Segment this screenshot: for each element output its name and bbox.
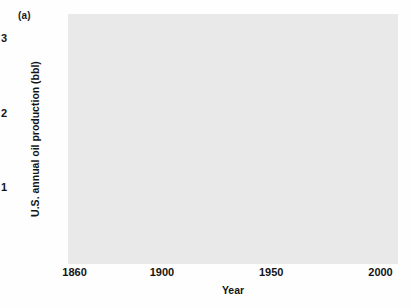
- y-tick-label: 3: [0, 32, 7, 44]
- x-tick-label: 1900: [142, 266, 182, 278]
- panel-label: (a): [18, 10, 31, 21]
- y-axis-label: U.S. annual oil production (bbl): [29, 34, 41, 244]
- y-tick-label: 2: [0, 107, 7, 119]
- figure-panel: (a) U.S. annual oil production (bbl) Yea…: [0, 0, 413, 308]
- x-tick-label: 1950: [251, 266, 291, 278]
- x-tick-label: 1860: [55, 266, 95, 278]
- x-axis-label: Year: [68, 284, 398, 296]
- x-tick-label: 2000: [361, 266, 401, 278]
- y-tick-label: 1: [0, 181, 7, 193]
- plot-background: [68, 14, 398, 264]
- plot-area: [68, 14, 398, 264]
